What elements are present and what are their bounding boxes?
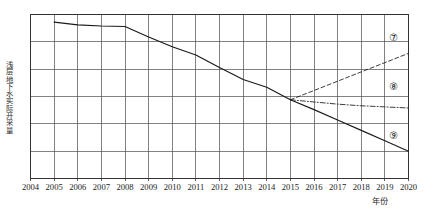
scenario-marker: ⑨ [389, 131, 398, 141]
scenario-marker: ⑦ [389, 33, 398, 43]
x-axis-title: 年份 [372, 196, 389, 207]
series-line-2 [290, 53, 408, 99]
grid-lines [31, 15, 409, 179]
groundwater-extraction-chart: 浅层地下水实际开采量 20042005200620072008200920102… [0, 0, 425, 224]
x-tick-label: 2020 [392, 181, 425, 193]
x-axis-tick-labels: 2004200520062007200820092010201120122013… [0, 181, 425, 195]
scenario-marker: ⑧ [389, 82, 398, 92]
